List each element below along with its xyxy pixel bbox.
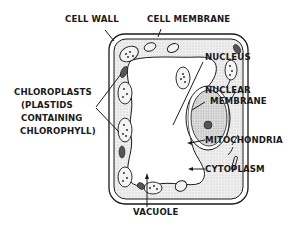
label-vacuole: VACUOLE <box>133 207 178 218</box>
label-nuclear-membrane-line2: MEMBRANE <box>210 96 267 107</box>
label-chloroplasts-line2: (PLASTIDS <box>21 100 73 111</box>
label-nucleus: NUCLEUS <box>205 52 251 63</box>
label-mitochondria: MITOCHONDRIA <box>205 135 283 146</box>
label-nuclear-membrane-line1: NUCLEAR <box>205 85 251 96</box>
label-chloroplasts-line1: CHLOROPLASTS <box>14 87 92 98</box>
label-cell-wall: CELL WALL <box>65 14 119 25</box>
plant-cell-diagram: CELL WALL CELL MEMBRANE NUCLEUS NUCLEAR … <box>0 0 302 234</box>
label-chloroplasts-line3: CONTAINING <box>21 113 82 124</box>
label-cell-membrane: CELL MEMBRANE <box>147 14 230 25</box>
label-chloroplasts-line4: CHLOROPHYLL) <box>20 126 96 137</box>
label-cytoplasm: CYTOPLASM <box>205 164 265 175</box>
